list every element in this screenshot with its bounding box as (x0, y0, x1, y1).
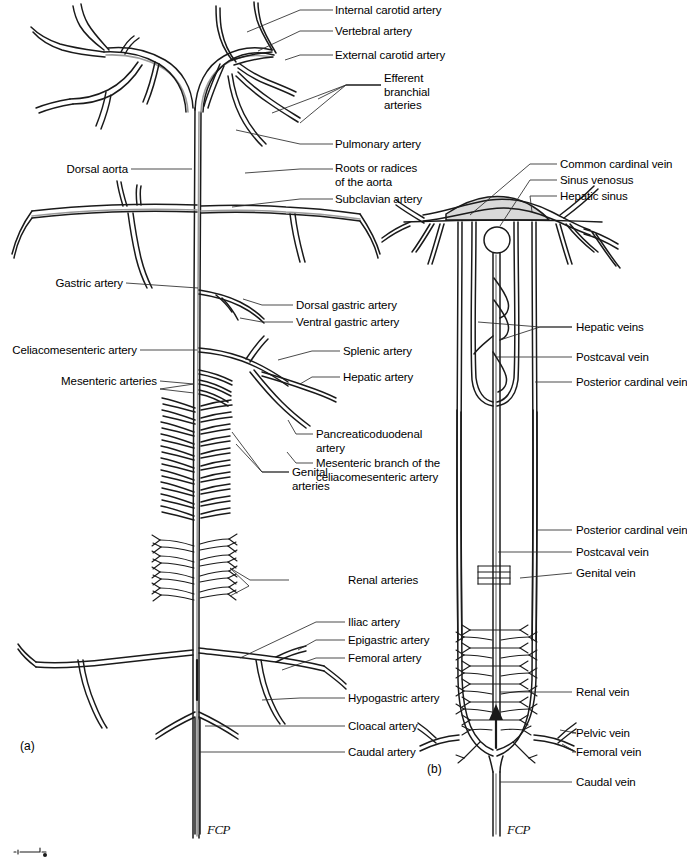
label-posterior-cardinal-vein-lower: Posterior cardinal vein (576, 524, 687, 538)
artist-signature-b: FCP (507, 822, 530, 838)
label-renal-arteries: Renal arteries (348, 574, 418, 588)
label-iliac-artery: Iliac artery (348, 616, 400, 630)
label-splenic-artery: Splenic artery (343, 345, 412, 359)
label-hepatic-artery: Hepatic artery (343, 371, 413, 385)
label-genital-arteries: Genital arteries (292, 466, 330, 493)
arterial-system-drawing (12, 2, 380, 838)
label-pulmonary-artery: Pulmonary artery (335, 138, 421, 152)
label-internal-carotid-artery: Internal carotid artery (335, 4, 441, 18)
label-subclavian-artery: Subclavian artery (335, 193, 422, 207)
genital-arteries-plumes (161, 398, 232, 520)
label-epigastric-artery: Epigastric artery (348, 634, 429, 648)
caudal-flow-arrow (489, 704, 503, 748)
label-pancreaticoduodenal-artery: Pancreaticoduodenal artery (316, 428, 422, 455)
hepatic-veins-path (474, 278, 509, 392)
label-roots-or-radices-of-the-aorta: Roots or radices of the aorta (335, 162, 417, 189)
label-postcaval-vein-lower: Postcaval vein (576, 546, 649, 560)
label-efferent-branchial-arteries: Efferent branchial arteries (384, 72, 430, 113)
artist-signature-a: FCP (207, 822, 230, 838)
label-hepatic-veins: Hepatic veins (576, 321, 644, 335)
label-sinus-venosus: Sinus venosus (560, 174, 634, 188)
label-femoral-vein: Femoral vein (576, 746, 641, 760)
corner-crop-mark (14, 848, 47, 857)
iliac-femoral-arteries (18, 644, 346, 728)
label-dorsal-gastric-artery: Dorsal gastric artery (296, 299, 397, 313)
kidney-capsule (457, 410, 537, 756)
label-posterior-cardinal-vein-upper: Posterior cardinal vein (576, 376, 687, 390)
left-branchial-tree (31, 4, 159, 129)
label-common-cardinal-vein: Common cardinal vein (560, 158, 672, 172)
label-cloacal-artery: Cloacal artery (348, 720, 418, 734)
label-caudal-vein: Caudal vein (576, 776, 636, 790)
label-ventral-gastric-artery: Ventral gastric artery (296, 316, 399, 330)
gastric-arteries (199, 290, 264, 323)
label-external-carotid-artery: External carotid artery (335, 49, 445, 63)
subclavian-arteries (12, 181, 380, 288)
caudal-artery (195, 718, 200, 834)
label-postcaval-vein-upper: Postcaval vein (576, 351, 649, 365)
right-branchial-tree (204, 2, 300, 146)
anatomy-figure: .v { fill:none; stroke:#1a1a1a; stroke-w… (0, 0, 687, 862)
label-genital-vein: Genital vein (576, 567, 636, 581)
label-hypogastric-artery: Hypogastric artery (348, 692, 440, 706)
genital-vein-marks (478, 566, 510, 584)
label-celiacomesenteric-artery: Celiacomesenteric artery (0, 344, 137, 358)
label-gastric-artery: Gastric artery (0, 277, 123, 291)
panel-label-a: (a) (20, 739, 35, 753)
caudal-vein-tail (489, 756, 503, 836)
label-femoral-artery: Femoral artery (348, 652, 421, 666)
label-mesenteric-arteries: Mesenteric arteries (0, 375, 157, 389)
label-mesenteric-branch-celiacomesenteric: Mesenteric branch of the celiacomesenter… (316, 457, 440, 484)
label-caudal-artery: Caudal artery (348, 746, 416, 760)
label-renal-vein: Renal vein (576, 686, 629, 700)
b-left-branch-tufts (382, 200, 444, 264)
hepatic-sinus-ring (484, 227, 510, 253)
label-hepatic-sinus: Hepatic sinus (560, 190, 628, 204)
label-dorsal-aorta: Dorsal aorta (0, 163, 128, 177)
renal-arteries-tufts (152, 534, 237, 601)
label-vertebral-artery: Vertebral artery (335, 25, 412, 39)
label-pelvic-vein: Pelvic vein (576, 727, 630, 741)
panel-label-b: (b) (427, 762, 442, 776)
left-aortic-arch (104, 48, 193, 113)
